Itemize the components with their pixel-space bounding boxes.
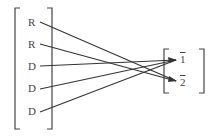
- left-item-4: D: [28, 83, 36, 94]
- arrowhead-1: [168, 57, 177, 63]
- left-item-3: D: [28, 61, 36, 72]
- left-item-5: D: [28, 106, 36, 117]
- left-item-1: R: [28, 17, 35, 28]
- arrow-d2-to-1: [40, 60, 176, 89]
- right-bracket-right: [199, 49, 204, 93]
- right-item-2: 2: [180, 77, 186, 88]
- left-bracket: [15, 8, 20, 129]
- arrow-r1-to-2: [40, 22, 176, 81]
- left-item-2: R: [28, 39, 35, 50]
- arrow-d1-to-1: [40, 60, 176, 66]
- arrowhead-2: [168, 76, 177, 82]
- right-item-1: 1: [180, 54, 186, 65]
- right-bracket: [164, 49, 169, 93]
- arrow-d3-to-1: [40, 60, 176, 112]
